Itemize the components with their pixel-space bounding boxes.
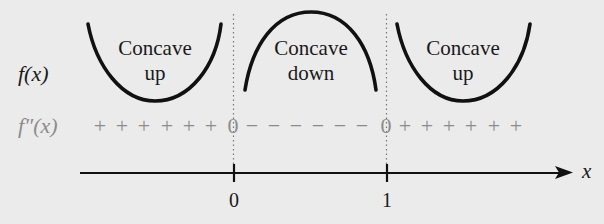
region-label-left-line2: up <box>100 61 210 86</box>
sign-zero-2: 0 <box>376 115 396 137</box>
sign-minus: − <box>308 115 328 137</box>
sign-minus: − <box>242 115 262 137</box>
second-derivative-row-label: f″(x) <box>18 115 58 137</box>
sign-minus: − <box>286 115 306 137</box>
sign-plus: + <box>157 115 177 137</box>
sign-plus: + <box>201 115 221 137</box>
sign-plus: + <box>134 115 154 137</box>
region-label-left: Concave up <box>100 36 210 86</box>
sign-plus: + <box>90 115 110 137</box>
sign-minus: − <box>264 115 284 137</box>
sign-plus: + <box>417 115 437 137</box>
region-label-middle-line2: down <box>256 61 366 86</box>
axis-variable-label: x <box>582 161 591 182</box>
region-label-left-line1: Concave <box>100 36 210 61</box>
sign-plus: + <box>506 115 526 137</box>
tick-label-0: 0 <box>224 190 244 210</box>
region-label-right: Concave up <box>408 36 518 86</box>
sign-plus: + <box>484 115 504 137</box>
function-row-label: f(x) <box>18 63 49 85</box>
sign-zero-1: 0 <box>223 115 243 137</box>
diagram-graphics <box>0 0 604 224</box>
sign-plus: + <box>395 115 415 137</box>
tick-label-1: 1 <box>377 190 397 210</box>
sign-plus: + <box>112 115 132 137</box>
sign-minus: − <box>330 115 350 137</box>
region-label-right-line1: Concave <box>408 36 518 61</box>
sign-plus: + <box>179 115 199 137</box>
sign-minus: − <box>352 115 372 137</box>
sign-plus: + <box>439 115 459 137</box>
concavity-diagram: Concave up Concave down Concave up f(x) … <box>0 0 604 224</box>
region-label-middle-line1: Concave <box>256 36 366 61</box>
region-label-middle: Concave down <box>256 36 366 86</box>
region-label-right-line2: up <box>408 61 518 86</box>
sign-plus: + <box>461 115 481 137</box>
